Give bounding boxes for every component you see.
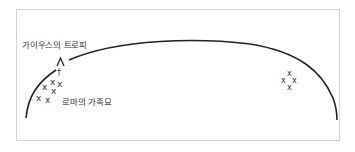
grave-icon: x — [42, 82, 48, 92]
diagram-canvas: † x x x x x x x x x x — [0, 0, 355, 152]
trophy-marker-icon — [57, 58, 64, 66]
grave-icon: x — [287, 83, 292, 92]
grave-icon: x — [57, 79, 63, 89]
grave-icon: x — [51, 86, 57, 96]
grave-icon: x — [36, 93, 42, 103]
hill-outline-right — [69, 41, 337, 120]
grave-icon: x — [45, 95, 51, 105]
tombs-label: 로마의 가족묘 — [62, 95, 111, 107]
grave-markers-left: x x x x x x — [36, 77, 63, 105]
trophy-label: 가이우스의 트로피 — [22, 38, 87, 50]
cross-icon: † — [57, 68, 61, 77]
grave-markers-right: x x x x — [281, 69, 297, 92]
grave-icon: x — [292, 76, 297, 85]
grave-icon: x — [281, 76, 286, 85]
